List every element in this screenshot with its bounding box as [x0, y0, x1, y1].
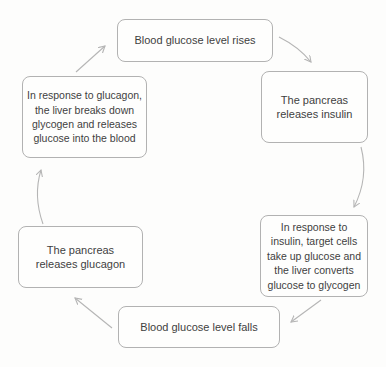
- node-label: The pancreas releases insulin: [268, 93, 361, 122]
- node-label: The pancreas releases glucagon: [25, 243, 136, 272]
- node-blood-glucose-level-falls: Blood glucose level falls: [118, 306, 280, 348]
- node-pancreas-releases-insulin: The pancreas releases insulin: [261, 71, 368, 143]
- node-glucagon-response: In response to glucagon, the liver break…: [22, 76, 147, 158]
- node-label: In response to glucagon, the liver break…: [27, 88, 142, 146]
- arrow-rise-to-insulin: [279, 37, 311, 62]
- arrow-glucagon-to-glucagon-response: [37, 170, 43, 224]
- arrow-glucagon-response-to-rise: [76, 46, 105, 72]
- node-label: Blood glucose level rises: [134, 33, 255, 47]
- node-label: In response to insulin, target cells tak…: [265, 220, 363, 292]
- arrow-insulin-to-insulin-response: [354, 147, 364, 207]
- cycle-diagram: Blood glucose level rises The pancreas r…: [0, 0, 386, 367]
- node-blood-glucose-level-rises: Blood glucose level rises: [117, 19, 273, 62]
- node-insulin-response: In response to insulin, target cells tak…: [260, 215, 368, 297]
- arrow-insulin-response-to-fall: [291, 300, 321, 322]
- node-label: Blood glucose level falls: [140, 320, 257, 334]
- arrow-fall-to-glucagon: [75, 298, 112, 328]
- node-pancreas-releases-glucagon: The pancreas releases glucagon: [18, 226, 143, 288]
